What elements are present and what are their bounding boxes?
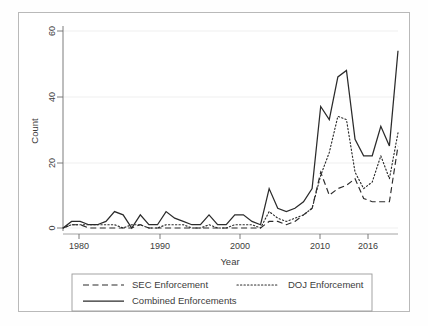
figure-container: 60 40 20 0 Count 1980 1990 2000 2010 201…: [0, 0, 428, 326]
x-tick-label-2010: 2010: [310, 241, 330, 251]
enforcement-line-chart: 60 40 20 0 Count 1980 1990 2000 2010 201…: [0, 0, 428, 326]
x-tick-label-2016: 2016: [358, 241, 378, 251]
series-line-combined-enforcements: [63, 51, 398, 228]
legend-label-doj-enforcement: DOJ Enforcement: [288, 279, 364, 290]
series-line-doj-enforcement: [63, 116, 398, 228]
y-axis-title: Count: [29, 118, 40, 144]
x-tick-label-1980: 1980: [69, 241, 89, 251]
y-tick-label-20: 20: [47, 158, 57, 168]
x-axis: 1980 1990 2000 2010 2016 Year: [63, 234, 398, 267]
legend-label-combined-enforcements: Combined Enforcements: [132, 295, 237, 306]
series-lines: [63, 51, 398, 228]
y-tick-label-60: 60: [47, 26, 57, 36]
x-tick-label-1990: 1990: [150, 241, 170, 251]
y-axis: 60 40 20 0 Count: [29, 26, 64, 231]
y-tick-label-0: 0: [47, 225, 57, 230]
legend-label-sec-enforcement: SEC Enforcement: [132, 279, 208, 290]
x-tick-label-2000: 2000: [230, 241, 250, 251]
y-tick-label-40: 40: [47, 92, 57, 102]
series-line-sec-enforcement: [63, 146, 398, 228]
x-axis-title: Year: [220, 256, 239, 267]
legend-box: SEC Enforcement DOJ Enforcement Combined…: [72, 274, 372, 311]
